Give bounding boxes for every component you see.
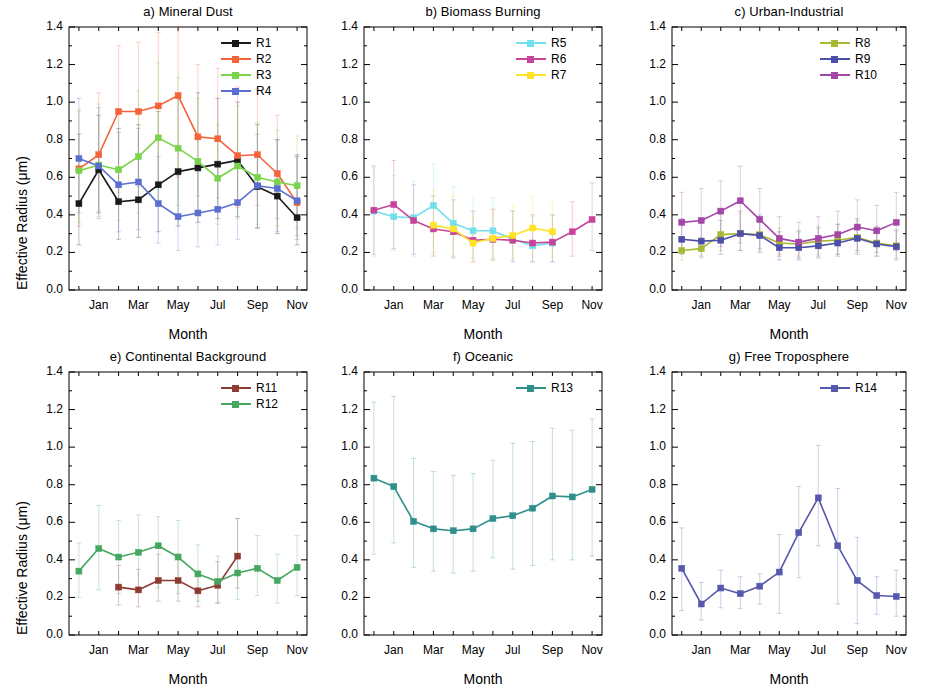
x-tick-e-4: Sep — [235, 643, 279, 657]
panel-c: c) Urban-IndustrialMonth0.00.20.40.60.81… — [634, 0, 928, 344]
y-tick-g-5: 1.0 — [630, 439, 666, 453]
x-tick-e-5: Nov — [275, 643, 319, 657]
y-tick-g-6: 1.2 — [630, 402, 666, 416]
legend-item-R9[interactable]: R9 — [820, 51, 877, 67]
x-axis-label-e: Month — [69, 671, 307, 687]
x-tick-b-4: Sep — [530, 298, 574, 312]
legend-label-R2: R2 — [256, 53, 271, 65]
panel-title-g: g) Free Troposphere — [632, 349, 928, 364]
figure-effective-radius-by-aerosol-type: a) Mineral DustEffective Radius (μm)Mont… — [0, 0, 928, 689]
legend-item-R13[interactable]: R13 — [516, 380, 573, 396]
x-tick-a-4: Sep — [235, 298, 279, 312]
x-tick-f-3: Jul — [491, 643, 535, 657]
x-tick-e-2: May — [156, 643, 200, 657]
x-tick-b-3: Jul — [491, 298, 535, 312]
x-tick-f-0: Jan — [372, 643, 416, 657]
y-tick-f-0: 0.0 — [322, 627, 358, 641]
legend-label-R9: R9 — [855, 53, 870, 65]
legend-swatch-R2 — [221, 54, 251, 64]
legend-f: R13 — [516, 380, 573, 396]
x-tick-a-3: Jul — [196, 298, 240, 312]
y-tick-a-3: 0.6 — [27, 169, 63, 183]
y-tick-e-4: 0.8 — [27, 477, 63, 491]
legend-item-R1[interactable]: R1 — [221, 35, 271, 51]
x-tick-a-2: May — [156, 298, 200, 312]
x-tick-f-4: Sep — [530, 643, 574, 657]
y-tick-a-0: 0.0 — [27, 282, 63, 296]
plot-area-b — [363, 26, 603, 291]
y-tick-f-6: 1.2 — [322, 402, 358, 416]
x-tick-g-2: May — [757, 643, 801, 657]
legend-item-R5[interactable]: R5 — [516, 35, 566, 51]
panel-title-e: e) Continental Background — [29, 349, 347, 364]
legend-label-R10: R10 — [855, 69, 877, 81]
series-R14 — [679, 495, 900, 607]
legend-swatch-R10 — [820, 70, 850, 80]
y-tick-f-4: 0.8 — [322, 477, 358, 491]
x-tick-c-4: Sep — [835, 298, 879, 312]
legend-swatch-R1 — [221, 38, 251, 48]
legend-item-R12[interactable]: R12 — [221, 396, 278, 412]
y-tick-g-0: 0.0 — [630, 627, 666, 641]
legend-swatch-R12 — [221, 399, 251, 409]
error-bars-R6 — [371, 160, 594, 261]
panel-b: b) Biomass BurningMonth0.00.20.40.60.81.… — [322, 0, 634, 344]
error-bars-R14 — [679, 445, 899, 623]
y-tick-c-7: 1.4 — [630, 19, 666, 33]
panel-title-f: f) Oceanic — [324, 349, 642, 364]
x-tick-c-2: May — [757, 298, 801, 312]
x-tick-g-4: Sep — [835, 643, 879, 657]
y-tick-b-7: 1.4 — [322, 19, 358, 33]
x-axis-label-f: Month — [364, 671, 602, 687]
legend-item-R11[interactable]: R11 — [221, 380, 278, 396]
y-tick-b-0: 0.0 — [322, 282, 358, 296]
y-tick-b-4: 0.8 — [322, 132, 358, 146]
x-tick-f-1: Mar — [411, 643, 455, 657]
x-tick-g-3: Jul — [796, 643, 840, 657]
legend-label-R1: R1 — [256, 37, 271, 49]
error-bars-R12 — [76, 505, 299, 603]
legend-label-R13: R13 — [551, 382, 573, 394]
panel-title-a: a) Mineral Dust — [29, 4, 347, 19]
legend-swatch-R11 — [221, 383, 251, 393]
panel-title-c: c) Urban-Industrial — [632, 4, 928, 19]
y-tick-a-1: 0.2 — [27, 244, 63, 258]
y-tick-e-5: 1.0 — [27, 439, 63, 453]
x-tick-b-5: Nov — [570, 298, 614, 312]
legend-item-R4[interactable]: R4 — [221, 83, 271, 99]
x-axis-label-b: Month — [364, 326, 602, 342]
x-tick-b-0: Jan — [372, 298, 416, 312]
y-tick-c-1: 0.2 — [630, 244, 666, 258]
x-tick-c-1: Mar — [718, 298, 762, 312]
legend-a: R1R2R3R4 — [221, 35, 271, 99]
legend-item-R6[interactable]: R6 — [516, 51, 566, 67]
series-R3 — [76, 135, 300, 189]
legend-swatch-R9 — [820, 54, 850, 64]
y-tick-a-5: 1.0 — [27, 94, 63, 108]
legend-swatch-R7 — [516, 70, 546, 80]
y-tick-e-3: 0.6 — [27, 514, 63, 528]
y-tick-a-7: 1.4 — [27, 19, 63, 33]
x-tick-e-1: Mar — [116, 643, 160, 657]
legend-item-R3[interactable]: R3 — [221, 67, 271, 83]
legend-label-R12: R12 — [256, 398, 278, 410]
legend-item-R14[interactable]: R14 — [820, 380, 877, 396]
legend-item-R8[interactable]: R8 — [820, 35, 877, 51]
series-R6 — [371, 202, 595, 247]
y-tick-b-1: 0.2 — [322, 244, 358, 258]
series-R8 — [679, 231, 900, 254]
x-axis-label-a: Month — [69, 326, 307, 342]
legend-item-R7[interactable]: R7 — [516, 67, 566, 83]
legend-item-R2[interactable]: R2 — [221, 51, 271, 67]
y-tick-f-2: 0.4 — [322, 552, 358, 566]
legend-item-R10[interactable]: R10 — [820, 67, 877, 83]
error-bars-R5 — [371, 164, 555, 262]
series-R10 — [679, 198, 900, 245]
legend-swatch-R13 — [516, 383, 546, 393]
y-tick-a-6: 1.2 — [27, 57, 63, 71]
series-R13 — [371, 475, 595, 534]
x-tick-g-5: Nov — [874, 643, 918, 657]
series-R12 — [76, 543, 300, 585]
x-tick-e-0: Jan — [77, 643, 121, 657]
panel-f: f) OceanicMonth0.00.20.40.60.81.01.21.4J… — [322, 345, 634, 689]
